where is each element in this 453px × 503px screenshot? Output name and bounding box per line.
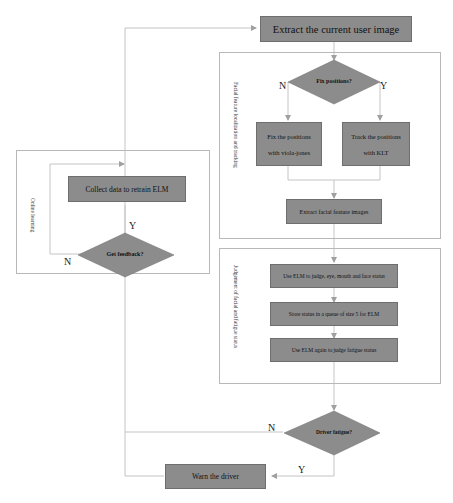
- driver-fatigue-yes-label: Y: [298, 464, 305, 475]
- driver-fatigue-no-label: N: [268, 422, 275, 433]
- warn-driver-box: Warn the driver: [165, 464, 266, 489]
- warn-driver-label: Warn the driver: [192, 472, 239, 481]
- driver-fatigue-text: Driver fatigue?: [304, 429, 364, 435]
- driver-fatigue-diamond: [0, 0, 453, 503]
- flowchart-canvas: Extract the current user image Facial fe…: [0, 0, 453, 503]
